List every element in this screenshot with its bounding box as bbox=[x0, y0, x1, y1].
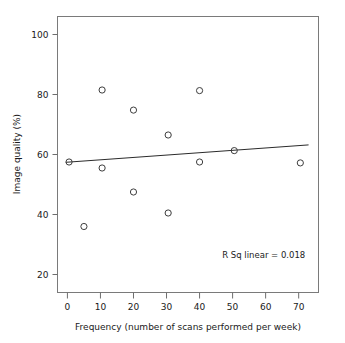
data-point-marker bbox=[297, 160, 303, 166]
regression-line bbox=[66, 145, 309, 162]
y-axis-ticks: 20406080100 bbox=[31, 30, 57, 280]
x-tick-label: 0 bbox=[65, 302, 71, 312]
data-point-marker bbox=[196, 159, 202, 165]
y-tick-label: 40 bbox=[37, 210, 49, 220]
x-tick-label: 70 bbox=[293, 302, 305, 312]
scatter-plot-figure: 20406080100 010203040506070 Image qualit… bbox=[0, 0, 345, 343]
data-point-marker bbox=[165, 132, 171, 138]
x-tick-label: 40 bbox=[194, 302, 206, 312]
y-tick-label: 100 bbox=[31, 30, 48, 40]
x-axis-title: Frequency (number of scans performed per… bbox=[75, 322, 301, 332]
x-tick-label: 50 bbox=[227, 302, 239, 312]
data-point-marker bbox=[99, 165, 105, 171]
regression-line-segment bbox=[66, 145, 309, 162]
x-tick-label: 10 bbox=[95, 302, 107, 312]
x-tick-label: 60 bbox=[260, 302, 272, 312]
data-point-marker bbox=[81, 223, 87, 229]
x-axis-ticks: 010203040506070 bbox=[65, 293, 305, 312]
x-tick-label: 30 bbox=[161, 302, 173, 312]
y-tick-label: 60 bbox=[37, 150, 49, 160]
y-tick-label: 80 bbox=[37, 90, 49, 100]
data-points bbox=[66, 87, 303, 230]
annotation-r-squared: R Sq linear = 0.018 bbox=[222, 250, 305, 260]
data-point-marker bbox=[130, 189, 136, 195]
data-point-marker bbox=[165, 210, 171, 216]
data-point-marker bbox=[99, 87, 105, 93]
data-point-marker bbox=[196, 88, 202, 94]
y-axis-title: Image quality (%) bbox=[12, 114, 22, 194]
y-tick-label: 20 bbox=[37, 270, 49, 280]
chart-annotations: R Sq linear = 0.018 bbox=[222, 250, 305, 260]
data-point-marker bbox=[130, 107, 136, 113]
x-tick-label: 20 bbox=[128, 302, 140, 312]
